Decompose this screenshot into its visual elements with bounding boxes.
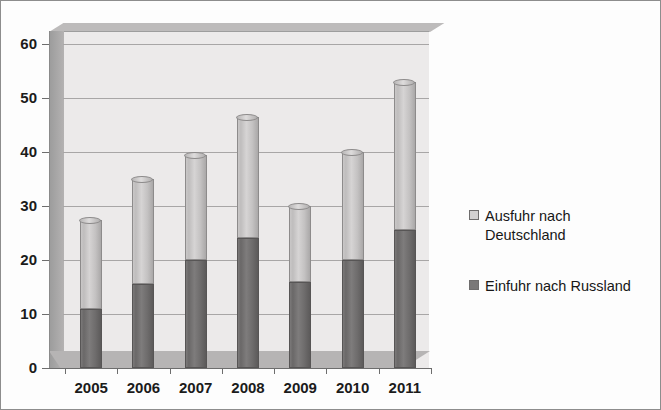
plot-left-depth-face xyxy=(49,31,64,368)
x-axis-tick-label: 2007 xyxy=(172,379,220,396)
x-axis-tick-label: 2006 xyxy=(119,379,167,396)
x-axis-tick-mark xyxy=(431,368,432,374)
x-axis-tick-mark xyxy=(65,368,66,374)
y-axis-tick-label: 10 xyxy=(3,305,37,322)
x-axis-line xyxy=(42,368,432,369)
chart-legend: Ausfuhr nach Deutschland Einfuhr nach Ru… xyxy=(469,207,654,328)
x-axis-tick-label: 2009 xyxy=(276,379,324,396)
y-axis-tick-mark xyxy=(42,314,49,315)
chart-plot: 0102030405060 20052006200720082009201020… xyxy=(1,1,451,410)
bar-stack[interactable] xyxy=(394,82,416,368)
x-axis-tick-mark xyxy=(117,368,118,374)
y-axis-tick-label: 40 xyxy=(3,143,37,160)
bar-stack[interactable] xyxy=(132,179,154,368)
gridline xyxy=(63,98,429,99)
legend-item-ausfuhr[interactable]: Ausfuhr nach Deutschland xyxy=(469,207,654,245)
bar-segment-einfuhr[interactable] xyxy=(342,260,364,368)
legend-swatch-light-gray-icon xyxy=(469,210,479,220)
y-axis-tick-mark xyxy=(42,44,49,45)
bar-segment-einfuhr[interactable] xyxy=(237,238,259,368)
chart-frame: 0102030405060 20052006200720082009201020… xyxy=(0,0,661,410)
legend-label-einfuhr: Einfuhr nach Russland xyxy=(485,277,631,296)
bar-segment-einfuhr[interactable] xyxy=(394,230,416,368)
bar-top-cap xyxy=(79,217,101,224)
y-axis-tick-label: 20 xyxy=(3,251,37,268)
y-axis-tick-mark xyxy=(42,260,49,261)
y-axis-tick-mark xyxy=(42,98,49,99)
bar-segment-ausfuhr[interactable] xyxy=(394,82,416,231)
bar-stack[interactable] xyxy=(342,152,364,368)
legend-label-ausfuhr: Ausfuhr nach Deutschland xyxy=(485,207,654,245)
bar-segment-ausfuhr[interactable] xyxy=(342,152,364,260)
bar-segment-ausfuhr[interactable] xyxy=(185,155,207,260)
bar-stack[interactable] xyxy=(289,206,311,368)
x-axis-tick-label: 2011 xyxy=(381,379,429,396)
bar-segment-einfuhr[interactable] xyxy=(132,284,154,368)
bar-segment-einfuhr[interactable] xyxy=(185,260,207,368)
bar-top-cap xyxy=(393,79,415,86)
bar-segment-einfuhr[interactable] xyxy=(80,309,102,368)
y-axis-tick-mark xyxy=(42,206,49,207)
y-axis-tick-label: 0 xyxy=(3,359,37,376)
x-axis-tick-label: 2005 xyxy=(67,379,115,396)
y-axis-tick-label: 30 xyxy=(3,197,37,214)
gridline xyxy=(63,44,429,45)
y-axis-tick-label: 50 xyxy=(3,89,37,106)
x-axis-tick-mark xyxy=(274,368,275,374)
x-axis-tick-mark xyxy=(379,368,380,374)
bar-stack[interactable] xyxy=(80,220,102,369)
bar-top-cap xyxy=(236,114,258,121)
bar-stack[interactable] xyxy=(237,117,259,368)
legend-item-einfuhr[interactable]: Einfuhr nach Russland xyxy=(469,277,654,296)
y-axis-tick-mark xyxy=(42,152,49,153)
x-axis-tick-mark xyxy=(326,368,327,374)
x-axis-tick-label: 2008 xyxy=(224,379,272,396)
bar-segment-ausfuhr[interactable] xyxy=(237,117,259,239)
bar-stack[interactable] xyxy=(185,155,207,368)
x-axis-tick-label: 2010 xyxy=(329,379,377,396)
x-axis-tick-mark xyxy=(222,368,223,374)
legend-swatch-dark-gray-icon xyxy=(469,280,479,290)
x-axis-tick-mark xyxy=(170,368,171,374)
y-axis-tick-label: 60 xyxy=(3,35,37,52)
bar-segment-ausfuhr[interactable] xyxy=(289,206,311,282)
bar-segment-ausfuhr[interactable] xyxy=(80,220,102,309)
bar-top-cap xyxy=(341,149,363,156)
bar-segment-einfuhr[interactable] xyxy=(289,282,311,368)
bar-segment-ausfuhr[interactable] xyxy=(132,179,154,284)
y-axis-line xyxy=(49,31,50,368)
bar-top-cap xyxy=(184,152,206,159)
